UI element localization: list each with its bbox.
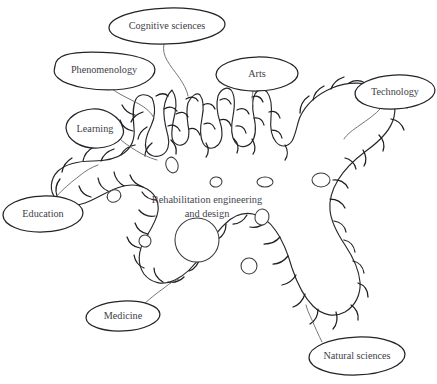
cilium (351, 305, 358, 320)
connector-cognitive-sciences (163, 44, 188, 96)
bubble-label-text: Arts (248, 68, 266, 79)
cilium (330, 199, 345, 208)
cilium (203, 104, 215, 109)
cilium (236, 126, 246, 133)
cilium (156, 94, 168, 96)
cilium (237, 109, 249, 114)
label-bubble-arts[interactable]: Arts (216, 56, 299, 91)
bubble-label-text: Medicine (104, 310, 143, 321)
vacuole-small (241, 258, 257, 274)
cilium (282, 275, 296, 285)
vacuole-small (312, 173, 330, 187)
cilium (264, 237, 280, 244)
cilium (204, 123, 215, 129)
bubble-label-text: Phenomenology (71, 64, 138, 75)
cilium (135, 223, 148, 234)
center-title-line2: and design (185, 208, 231, 219)
vacuole-nucleus (175, 218, 219, 262)
diagram-canvas: Cognitive sciences Phenomenology Arts Te… (0, 0, 437, 384)
label-bubble-learning[interactable]: Learning (66, 109, 123, 148)
label-bubble-medicine[interactable]: Medicine (85, 299, 160, 333)
bubble-label-text: Education (22, 208, 63, 219)
cilium (83, 147, 94, 161)
bubble-label-text: Natural sciences (323, 350, 390, 361)
cilium (139, 210, 155, 216)
center-title-line1: Rehabilitation engineering (152, 194, 263, 205)
cilium (293, 294, 305, 307)
cilium (273, 256, 288, 264)
vacuole-small (257, 177, 273, 187)
label-bubble-technology[interactable]: Technology (354, 73, 436, 111)
amoeba-diagram-svg: Cognitive sciences Phenomenology Arts Te… (0, 0, 437, 384)
bubble-label-text: Learning (77, 123, 114, 134)
cilium (176, 112, 188, 117)
cilium (127, 237, 140, 248)
label-bubble-natural-sciences[interactable]: Natural sciences (308, 335, 405, 376)
label-bubble-education[interactable]: Education (2, 195, 83, 234)
label-bubble-phenomenology[interactable]: Phenomenology (54, 52, 155, 90)
bubble-label-text: Cognitive sciences (129, 20, 206, 31)
bubble-label-text: Technology (371, 86, 420, 97)
label-bubble-cognitive-sciences[interactable]: Cognitive sciences (108, 6, 225, 46)
cilium (310, 309, 318, 324)
